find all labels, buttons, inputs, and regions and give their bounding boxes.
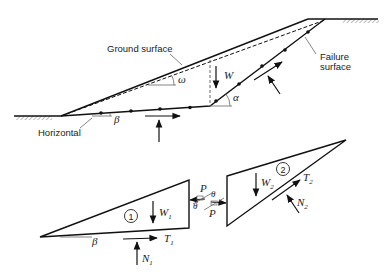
ground-surface-leader [170,54,182,65]
inclined-shear-arrow [254,62,282,80]
ground-surface-dashed [61,20,325,116]
beta-label-lower: β [91,235,98,247]
ground-surface-label: Ground surface [107,43,172,54]
t1-label: T1 [164,232,174,247]
interaction-forces: P θ θ P [190,182,226,219]
w1-label: W1 [159,206,172,221]
theta-left-label: θ [193,201,198,211]
failure-surface-label-line2: surface [320,61,351,72]
p-arrow-on-wedge-2 [211,202,226,203]
omega-label: ω [178,73,186,85]
slope-face [61,19,308,116]
upper-slope-diagram: W ω α β Ground surface Failure surface H… [14,19,379,142]
p-top-label: P [199,182,207,194]
w2-label: W2 [261,176,274,191]
omega-arc [172,76,174,85]
p-bottom-label: P [208,207,216,219]
wedge-2-outline [227,140,346,226]
theta-right-label: θ [211,189,216,199]
t1-arrow [123,238,157,239]
horizontal-leader [80,118,92,128]
wedge-2: 2 W2 T2 N2 [227,140,346,226]
alpha-arc [226,94,230,106]
horizontal-label: Horizontal [38,127,81,138]
n1-label: N1 [141,252,153,267]
inclined-normal-arrow [268,76,280,94]
weight-label: W [224,69,234,81]
beta-label: β [113,113,120,125]
alpha-label: α [233,91,239,103]
n2-label: N2 [296,196,308,211]
failure-surface-leader [305,37,316,54]
t2-label: T2 [303,171,313,186]
wedge-1-number: 1 [128,212,133,222]
lower-free-body-diagram: 1 W1 β T1 N1 P θ θ P 2 [40,140,346,267]
wedge-1: 1 W1 β T1 N1 [40,180,189,267]
two-wedge-slope-diagram: W ω α β Ground surface Failure surface H… [0,0,392,280]
wedge-2-number: 2 [280,165,285,175]
